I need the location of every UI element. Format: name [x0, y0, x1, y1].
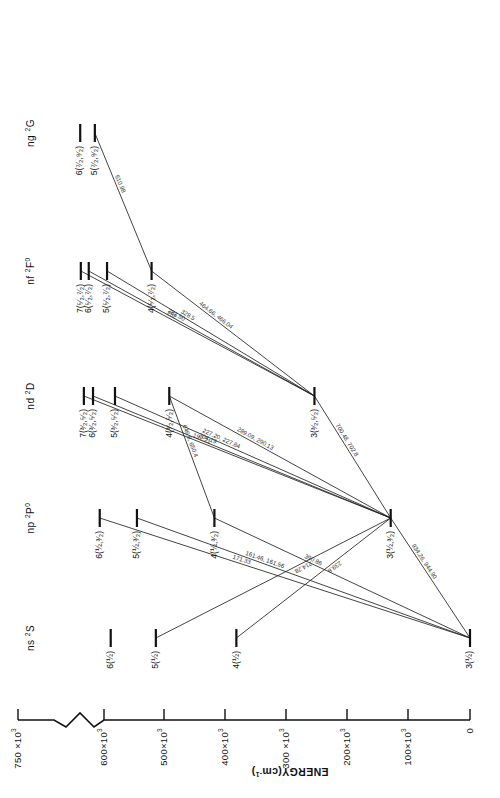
transition-line[interactable]	[137, 518, 470, 638]
level-label: 5(⁷⁄₂,⁹⁄₂)	[89, 146, 99, 175]
transition-line[interactable]	[115, 396, 391, 518]
tick-sup: 3	[217, 728, 224, 732]
level-label: 4(½)	[231, 651, 241, 669]
tick-label: 200×10	[341, 732, 352, 766]
energy-levels: 6(½)5(½)4(½)3(½)6(½,³⁄₂)5(½,³⁄₂)4(½,³⁄₂)…	[74, 124, 474, 669]
transition-line[interactable]	[152, 271, 315, 396]
transition-line[interactable]	[169, 396, 390, 518]
transition-line[interactable]	[81, 271, 315, 396]
svg-text:400×103: 400×103	[217, 728, 230, 766]
level-label: 3(½)	[464, 651, 474, 669]
transition-line[interactable]	[169, 396, 214, 518]
level-label: 5(½)	[150, 651, 160, 669]
transition-line[interactable]	[93, 396, 391, 518]
transition-line[interactable]	[236, 518, 390, 638]
transition-wavelength-label: 464.66, 466.04	[198, 300, 235, 331]
transition-wavelength-label: 934.26, 944.90	[411, 542, 440, 580]
level-label: 6(½)	[105, 651, 115, 669]
tick-sup: 3	[278, 728, 285, 732]
svg-text:750 ×103: 750 ×103	[10, 728, 23, 769]
level-label: 4(½,³⁄₂)	[209, 531, 219, 559]
level-label: 6(⁵⁄₂,⁷⁄₂)	[83, 284, 93, 313]
transition-line[interactable]	[89, 271, 315, 396]
column-head-np: np 2P0	[24, 503, 36, 534]
svg-text:300 ×103: 300 ×103	[278, 728, 291, 769]
column-head-nd: nd 2D	[24, 382, 36, 409]
tick-label: 300 ×10	[280, 732, 291, 769]
tick-sup: 3	[156, 728, 163, 732]
svg-text:600×103: 600×103	[96, 728, 109, 766]
tick-label: 100×10	[402, 732, 413, 766]
axis-tick-labels: 750 ×103 600×103 500×103 400×103 300 ×10…	[10, 728, 475, 769]
tick-label: 600×10	[98, 732, 109, 766]
level-label: 6(⁷⁄₂,⁹⁄₂)	[74, 146, 84, 175]
level-label: 3(³⁄₂,⁵⁄₂)	[309, 409, 319, 438]
tick-sup: 3	[400, 728, 407, 732]
svg-text:500×103: 500×103	[156, 728, 169, 766]
transition-lines: 610.98464.66, 466.04328.5281.50252192.21…	[81, 133, 470, 638]
column-head-nf: nf 2F0	[24, 257, 36, 285]
transition-wavelength-label: 239.8	[326, 560, 343, 575]
energy-axis: 750 ×103 600×103 500×103 400×103 300 ×10…	[10, 709, 475, 778]
level-label: 5(³⁄₂,⁵⁄₂)	[109, 409, 119, 438]
tick-label: 500×10	[158, 732, 169, 766]
axis-line	[18, 713, 470, 727]
transition-line[interactable]	[314, 396, 390, 518]
rotated-figure-canvas: 750 ×103 600×103 500×103 400×103 300 ×10…	[0, 0, 500, 798]
transition-line[interactable]	[84, 396, 391, 518]
level-label: 3(½,³⁄₂)	[385, 531, 395, 559]
transition-line[interactable]	[95, 133, 152, 271]
svg-text:100×103: 100×103	[400, 728, 413, 766]
figure-page: 750 ×103 600×103 500×103 400×103 300 ×10…	[0, 0, 500, 798]
transition-line[interactable]	[214, 518, 470, 638]
svg-text:0: 0	[464, 728, 475, 734]
tick-label: 0	[464, 728, 475, 734]
transition-line[interactable]	[391, 518, 470, 638]
level-label: 5(½,³⁄₂)	[131, 531, 141, 559]
column-head-ng: ng 2G	[24, 119, 36, 147]
level-label: 5(⁵⁄₂,⁷⁄₂)	[101, 284, 111, 313]
svg-text:200×103: 200×103	[339, 728, 352, 766]
tick-label: 400×10	[219, 732, 230, 766]
column-headings: ns 2S np 2P0 nd 2D nf 2F0 ng 2G	[24, 119, 36, 651]
level-label: 6(³⁄₂,⁵⁄₂)	[87, 409, 97, 438]
level-label: 6(½,³⁄₂)	[94, 531, 104, 559]
level-label: 4(³⁄₂,⁵⁄₂)	[164, 409, 174, 438]
transition-line[interactable]	[156, 518, 391, 638]
level-label: 4(⁵⁄₂,⁷⁄₂)	[146, 284, 156, 313]
tick-sup: 3	[10, 728, 17, 732]
energy-level-diagram: 750 ×103 600×103 500×103 400×103 300 ×10…	[0, 0, 500, 798]
tick-sup: 3	[96, 728, 103, 732]
column-head-ns: ns 2S	[24, 625, 36, 651]
axis-title: ENERGY(cm-1)	[251, 766, 328, 778]
tick-sup: 3	[339, 728, 346, 732]
transition-wavelength-label: 700.48, 702.8	[335, 422, 361, 458]
transition-wavelength-label: 289.09, 290.13	[236, 425, 276, 451]
tick-label: 750 ×10	[12, 732, 23, 769]
transition-line[interactable]	[100, 518, 470, 638]
transition-line[interactable]	[107, 271, 314, 396]
